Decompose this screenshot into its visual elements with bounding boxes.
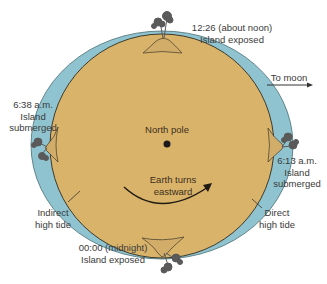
label-indirect-high-tide: Indirect high tide — [28, 207, 78, 230]
label-left-line3: submerged — [4, 122, 62, 134]
label-noon-time: 12:26 (about noon) — [182, 22, 282, 34]
north-pole-dot — [164, 141, 171, 148]
label-left-time: 6:38 a.m. — [4, 99, 62, 111]
label-midnight-status: Island exposed — [68, 254, 158, 266]
label-noon: 12:26 (about noon) Island exposed — [182, 22, 282, 45]
label-north-pole-text: North pole — [132, 124, 202, 136]
label-left-submerged: 6:38 a.m. Island submerged — [4, 99, 62, 134]
label-earth-turns-line1: Earth turns — [138, 174, 208, 186]
palm-tree-right-icon — [282, 133, 299, 149]
earth-globe — [50, 34, 274, 258]
label-left-line2: Island — [4, 111, 62, 123]
label-right-line3: submerged — [268, 178, 326, 190]
label-direct-high-tide: Direct high tide — [252, 207, 302, 230]
label-midnight: 00:00 (midnight) Island exposed — [68, 242, 158, 265]
label-earth-turns-line2: eastward — [138, 186, 208, 198]
label-direct-line1: Direct — [252, 207, 302, 219]
label-right-time: 6:13 a.m. — [268, 155, 326, 167]
label-noon-status: Island exposed — [182, 34, 282, 46]
label-earth-turns: Earth turns eastward — [138, 174, 208, 197]
label-right-line2: Island — [268, 167, 326, 179]
label-indirect-line1: Indirect — [28, 207, 78, 219]
label-midnight-time: 00:00 (midnight) — [68, 242, 158, 254]
label-to-moon: To moon — [266, 72, 312, 84]
label-to-moon-text: To moon — [266, 72, 312, 84]
label-north-pole: North pole — [132, 124, 202, 136]
label-indirect-line2: high tide — [28, 219, 78, 231]
label-right-submerged: 6:13 a.m. Island submerged — [268, 155, 326, 190]
label-direct-line2: high tide — [252, 219, 302, 231]
